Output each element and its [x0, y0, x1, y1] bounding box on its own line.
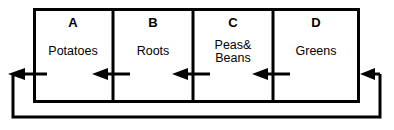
- cell-b-label: Roots: [137, 44, 170, 58]
- cell-d-label: Greens: [296, 44, 337, 58]
- crop-rotation-diagram: A Potatoes B Roots C Peas& Beans D Green…: [0, 0, 394, 130]
- cell-b-letter: B: [148, 15, 157, 30]
- cell-a-letter: A: [68, 15, 78, 30]
- cell-d-letter: D: [311, 15, 320, 30]
- flow-arrow-into-d: [360, 68, 380, 80]
- diagram-canvas: A Potatoes B Roots C Peas& Beans D Green…: [0, 0, 394, 130]
- cell-a-label: Potatoes: [48, 44, 97, 58]
- cell-c-label-line-1: Peas&: [215, 38, 252, 52]
- cell-c-letter: C: [228, 15, 238, 30]
- cell-c-label-line-2: Beans: [215, 51, 250, 65]
